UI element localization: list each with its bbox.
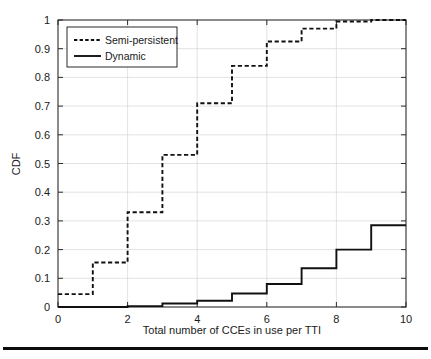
y-tick-label: 0.2 (35, 244, 50, 256)
bottom-rule (3, 347, 428, 350)
cdf-chart-figure: 0246810 00.10.20.30.40.50.60.70.80.91 To… (0, 0, 431, 359)
x-axis-title: Total number of CCEs in use per TTI (143, 324, 321, 336)
y-tick-label: 0.7 (35, 100, 50, 112)
legend-label-semi-persistent: Semi-persistent (105, 34, 178, 46)
x-tick-label: 8 (333, 313, 339, 325)
y-axis-title: CDF (10, 152, 22, 175)
y-tick-label: 0.9 (35, 43, 50, 55)
y-tick-label: 0.4 (35, 186, 50, 198)
y-tick-label: 0.6 (35, 129, 50, 141)
chart-background (0, 0, 431, 359)
x-tick-label: 2 (125, 313, 131, 325)
y-tick-label: 0.3 (35, 215, 50, 227)
y-tick-label: 0.5 (35, 158, 50, 170)
x-tick-label: 10 (400, 313, 412, 325)
legend: Semi-persistent Dynamic (67, 27, 178, 67)
chart-canvas: 0246810 00.10.20.30.40.50.60.70.80.91 To… (0, 0, 431, 359)
legend-label-dynamic: Dynamic (105, 50, 146, 62)
y-tick-label: 0.1 (35, 272, 50, 284)
y-tick-label: 0 (44, 301, 50, 313)
y-tick-label: 1 (44, 14, 50, 26)
x-tick-label: 0 (55, 313, 61, 325)
y-tick-label: 0.8 (35, 71, 50, 83)
